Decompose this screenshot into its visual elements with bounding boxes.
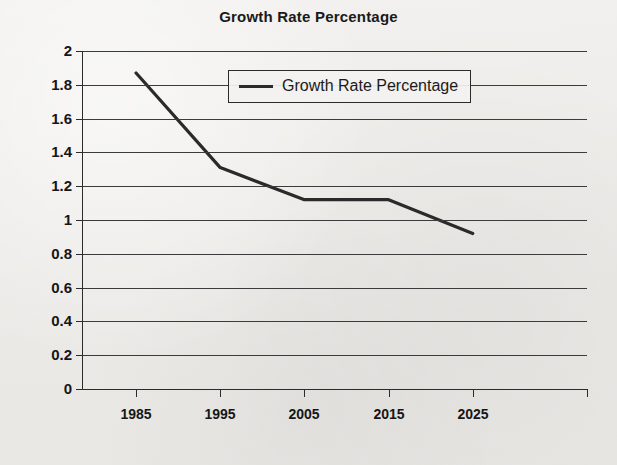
x-axis-label: 1985 [101, 406, 171, 422]
y-axis-label: 1.6 [24, 110, 72, 127]
x-axis-label: 2015 [354, 406, 424, 422]
x-axis-tick [220, 389, 221, 397]
x-axis-label: 2005 [269, 406, 339, 422]
gridline [82, 220, 587, 221]
legend-label: Growth Rate Percentage [282, 77, 458, 95]
gridline [82, 321, 587, 322]
y-axis-tick [76, 186, 83, 187]
y-axis-tick [76, 85, 83, 86]
gridline [82, 288, 587, 289]
y-axis-tick [76, 321, 83, 322]
y-axis-label: 1.8 [24, 76, 72, 93]
x-axis-label: 1995 [185, 406, 255, 422]
y-axis-label: 1.4 [24, 143, 72, 160]
gridline [82, 119, 587, 120]
x-axis-tick [304, 389, 305, 397]
y-axis-tick [76, 389, 83, 390]
x-axis-label: 2025 [438, 406, 508, 422]
chart-title: Growth Rate Percentage [0, 8, 617, 25]
x-axis-tick [473, 389, 474, 397]
x-axis-tick [389, 389, 390, 397]
gridline [82, 186, 587, 187]
y-axis-label: 1 [24, 211, 72, 228]
y-axis-tick [76, 288, 83, 289]
line-chart: Growth Rate Percentage 21.81.61.41.210.8… [0, 0, 617, 465]
y-axis-tick [76, 220, 83, 221]
y-axis-tick [76, 254, 83, 255]
y-axis-tick [76, 355, 83, 356]
y-axis-label: 1.2 [24, 177, 72, 194]
legend-line-swatch-icon [239, 85, 273, 88]
x-axis-line [82, 389, 587, 390]
y-axis-label: 0.4 [24, 312, 72, 329]
gridline [82, 355, 587, 356]
chart-legend[interactable]: Growth Rate Percentage [228, 70, 471, 103]
y-axis-label: 0.8 [24, 245, 72, 262]
y-axis-tick [76, 51, 83, 52]
y-axis-label: 0.2 [24, 346, 72, 363]
y-axis-label: 0.6 [24, 279, 72, 296]
y-axis-tick [76, 152, 83, 153]
x-axis-tick [136, 389, 137, 397]
y-axis-label: 0 [24, 380, 72, 397]
x-axis-tick [587, 389, 588, 397]
gridline [82, 51, 587, 52]
gridline [82, 152, 587, 153]
y-axis-tick [76, 119, 83, 120]
gridline [82, 254, 587, 255]
y-axis-label: 2 [24, 42, 72, 59]
